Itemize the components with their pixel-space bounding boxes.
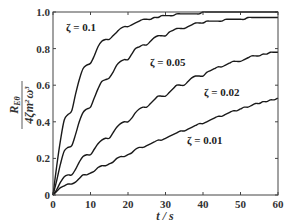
x-tick-label: 20 [123,198,135,210]
curve-label-zeta-0.05: ζ = 0.05 [150,56,186,69]
x-tick-label: 0 [50,198,56,210]
plot-frame [53,12,278,195]
y-tick-label: 0.8 [36,43,50,55]
y-tick-label: 1.0 [36,6,50,18]
curve-label-zeta-0.01: ζ = 0.01 [187,134,223,147]
y-tick-label: 0 [45,189,51,201]
plot-curves [53,12,278,195]
curve-label-zeta-0.02: ζ = 0.02 [204,86,240,99]
curve-label-zeta-0.1: ζ = 0.1 [66,21,96,34]
y-axis-title: REθ 4ζm2ω3 [7,81,36,129]
curve-series-3 [53,98,278,195]
curve-series-1 [53,17,278,195]
x-tick-label: 50 [235,198,247,210]
x-axis-title: t / s [156,209,174,223]
x-tick-label: 60 [273,198,285,210]
chart: 010203040506000.20.40.60.81.0 ζ = 0.1 ζ … [0,0,286,224]
y-tick-label: 0.6 [36,79,50,91]
curve-series-2 [53,52,278,195]
y-tick-label: 0.4 [36,116,50,128]
curve-series-0 [53,12,278,195]
y-tick-label: 0.2 [36,152,50,164]
x-tick-label: 40 [198,198,210,210]
svg-text:REθ: REθ [7,95,22,114]
svg-text:4ζm2ω3: 4ζm2ω3 [22,86,36,125]
axis-ticks: 010203040506000.20.40.60.81.0 [36,6,284,210]
x-tick-label: 10 [85,198,97,210]
